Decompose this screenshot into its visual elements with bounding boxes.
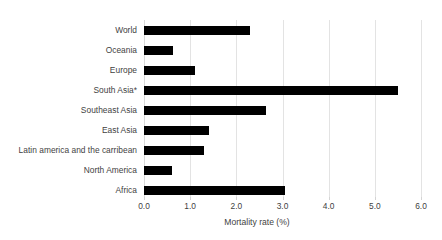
bar-row	[144, 40, 421, 60]
plot-area	[144, 20, 421, 200]
bar	[144, 46, 173, 55]
category-label: North America	[84, 160, 137, 180]
category-label: South Asia*	[93, 80, 137, 100]
bar-row	[144, 120, 421, 140]
x-tick-mark	[144, 197, 145, 200]
x-tick-mark	[421, 197, 422, 200]
gridline-6.0	[421, 20, 422, 200]
x-tick-mark	[190, 197, 191, 200]
bar	[144, 66, 195, 75]
category-label: Africa	[115, 180, 137, 200]
x-tick-mark	[375, 197, 376, 200]
category-axis-labels: WorldOceaniaEuropeSouth Asia*Southeast A…	[0, 20, 141, 200]
bar-row	[144, 60, 421, 80]
x-tick-label: 1.0	[184, 201, 196, 211]
bar	[144, 26, 250, 35]
category-label: East Asia	[102, 120, 137, 140]
bar	[144, 126, 209, 135]
bar	[144, 186, 285, 195]
bar-row	[144, 80, 421, 100]
category-label: Latin america and the carribean	[19, 140, 137, 160]
bar	[144, 86, 398, 95]
x-tick-mark	[236, 197, 237, 200]
x-tick-label: 4.0	[323, 201, 335, 211]
x-tick-label: 2.0	[231, 201, 243, 211]
x-tick-label: 0.0	[138, 201, 150, 211]
x-axis-title: Mortality rate (%)	[0, 217, 442, 227]
bar	[144, 146, 204, 155]
category-label: Europe	[110, 60, 137, 80]
bar-row	[144, 20, 421, 40]
x-tick-mark	[329, 197, 330, 200]
scan-artifact	[0, 233, 442, 240]
bar-row	[144, 100, 421, 120]
bar-row	[144, 140, 421, 160]
bar-chart: WorldOceaniaEuropeSouth Asia*Southeast A…	[0, 0, 442, 240]
x-tick-label: 3.0	[277, 201, 289, 211]
x-tick-label: 6.0	[415, 201, 427, 211]
category-label: World	[115, 20, 137, 40]
x-tick-label: 5.0	[369, 201, 381, 211]
bar	[144, 166, 172, 175]
x-axis-title-text: Mortality rate (%)	[152, 217, 289, 227]
x-tick-mark	[283, 197, 284, 200]
bar-row	[144, 160, 421, 180]
category-label: Southeast Asia	[81, 100, 137, 120]
category-label: Oceania	[106, 40, 137, 60]
x-axis-ticks: 0.01.02.03.04.05.06.0	[144, 201, 421, 215]
bar	[144, 106, 266, 115]
